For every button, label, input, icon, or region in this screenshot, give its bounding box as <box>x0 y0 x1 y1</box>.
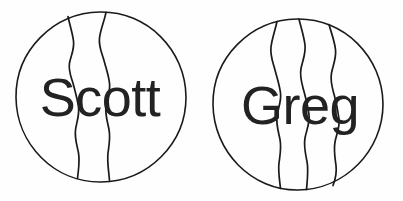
drawing-canvas: Scott Greg <box>0 0 403 201</box>
globe-greg[interactable]: Greg <box>213 19 383 190</box>
globe-scott[interactable]: Scott <box>16 12 186 182</box>
globe-scott-label: Scott <box>40 67 161 127</box>
globe-greg-label: Greg <box>241 75 359 135</box>
globes-illustration: Scott Greg <box>0 0 403 201</box>
